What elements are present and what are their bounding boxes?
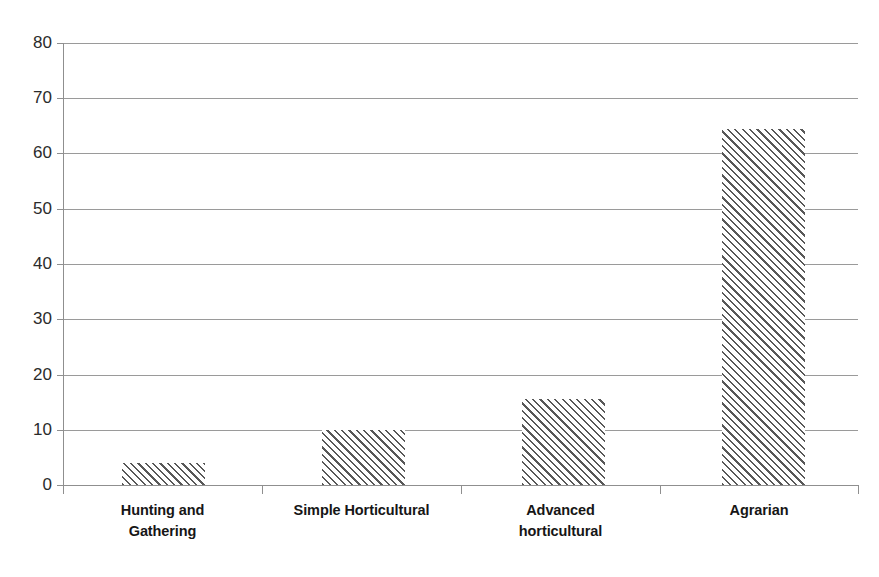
y-tick-label-40: 40 [4,255,52,272]
bar-hunting-and-gathering[interactable] [122,463,205,485]
y-tick-label-0: 0 [4,476,52,493]
x-category-label-line: Agrarian [660,500,858,521]
x-tick-mark-2 [461,485,462,494]
y-tick-label-10: 10 [4,421,52,438]
y-tick-label-50: 50 [4,200,52,217]
x-tick-mark-4 [858,485,859,494]
bar-top-edge [522,399,605,400]
bar-top-edge [722,129,805,130]
y-tick-label-20: 20 [4,366,52,383]
x-category-label-line: Advanced [461,500,660,521]
plot-area [63,43,858,485]
bar-simple-horticultural[interactable] [322,430,405,485]
bar-top-edge [322,430,405,431]
y-tick-label-60: 60 [4,144,52,161]
y-tick-label-80: 80 [4,34,52,51]
bar-chart: 80 70 60 50 40 30 20 10 0 [0,0,879,577]
x-category-label-line: horticultural [461,521,660,542]
x-category-label-simple-horticultural: Simple Horticultural [262,500,461,521]
bar-agrarian[interactable] [722,129,805,485]
x-category-label-line: Gathering [63,521,262,542]
bar-advanced-horticultural[interactable] [522,399,605,485]
x-category-label-line: Simple Horticultural [262,500,461,521]
y-tick-label-70: 70 [4,89,52,106]
x-tick-mark-3 [660,485,661,494]
x-tick-mark-0 [63,485,64,494]
x-category-label-agrarian: Agrarian [660,500,858,521]
x-tick-mark-1 [262,485,263,494]
x-category-label-line: Hunting and [63,500,262,521]
x-category-label-advanced-horticultural: Advanced horticultural [461,500,660,541]
x-category-label-hunting-and-gathering: Hunting and Gathering [63,500,262,541]
bar-top-edge [122,463,205,464]
y-tick-label-30: 30 [4,310,52,327]
